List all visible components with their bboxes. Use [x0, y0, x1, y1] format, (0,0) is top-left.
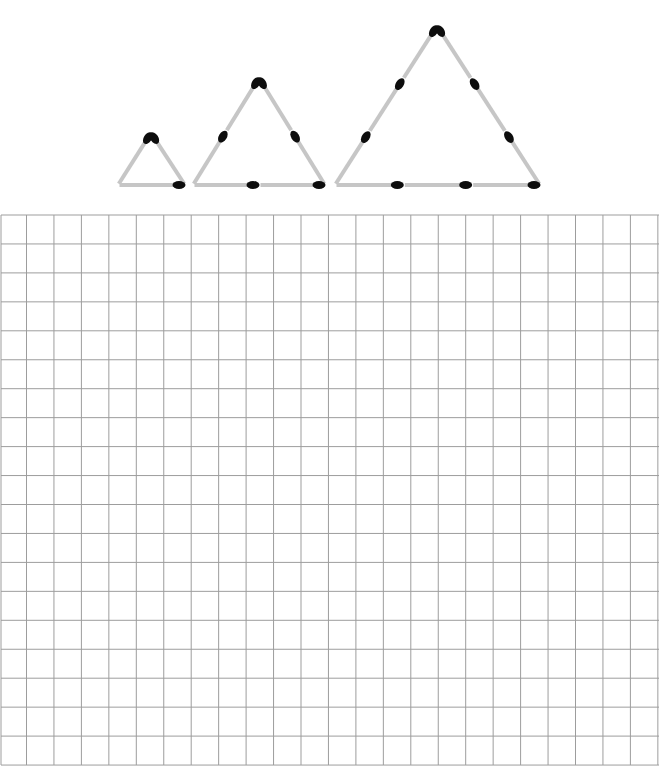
triangle-size-3 — [336, 23, 541, 189]
match-head — [528, 181, 541, 189]
match-head — [459, 181, 472, 189]
match-head — [173, 181, 186, 189]
match-head — [313, 181, 326, 189]
triangle-size-1 — [119, 130, 186, 189]
triangle-size-2 — [194, 75, 326, 189]
match-head — [247, 181, 260, 189]
square-grid — [1, 215, 659, 765]
match-head — [391, 181, 404, 189]
matchstick-triangles — [119, 23, 541, 189]
matchstick-pattern-figure — [0, 0, 662, 773]
